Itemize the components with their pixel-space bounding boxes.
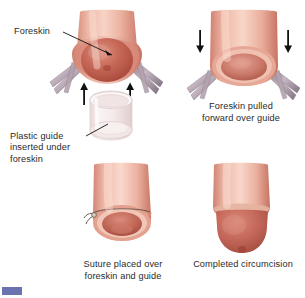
- label-plastic-guide: Plastic guide inserted under foreskin: [10, 131, 70, 165]
- panel-step-1-foreskin-retracted-with-guide: [42, 6, 172, 146]
- label-foreskin: Foreskin: [14, 26, 50, 37]
- shaft-highlight: [108, 166, 109, 209]
- meatus: [103, 65, 111, 71]
- arrow-down-right-icon: [284, 30, 292, 53]
- glans: [81, 38, 133, 82]
- figure-canvas: Foreskin Plastic guide inserted under fo…: [0, 0, 305, 298]
- page-corner-mark: [2, 287, 22, 295]
- shaft-highlight: [225, 13, 227, 58]
- step-2-illustration: [185, 8, 303, 108]
- panel-step-3-suture-placed: [72, 163, 172, 258]
- step-1-illustration: [42, 6, 172, 146]
- panel-step-4-completed-circumcision: [196, 163, 288, 258]
- caption-completed-circumcision: Completed circumcision: [182, 259, 304, 271]
- opening-highlight: [229, 58, 251, 69]
- caption-suture-placed: Suture placed over foreskin and guide: [62, 259, 184, 282]
- opening-shadow: [111, 224, 133, 234]
- meatus: [238, 246, 246, 252]
- caption-foreskin-pulled-forward: Foreskin pulled forward over guide: [182, 101, 300, 124]
- plastic-guide-ring: [90, 91, 132, 140]
- arrow-up-left-icon: [80, 83, 88, 106]
- hemostat-clamp-left-icon: [187, 70, 216, 100]
- glans-highlight: [222, 215, 246, 235]
- step-3-illustration: [72, 163, 172, 258]
- panel-step-2-foreskin-pulled-over-guide: [185, 8, 303, 108]
- step-4-illustration: [196, 163, 288, 258]
- arrow-down-left-icon: [196, 30, 204, 53]
